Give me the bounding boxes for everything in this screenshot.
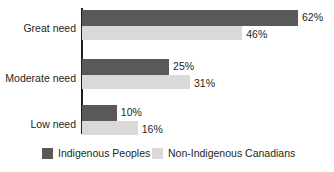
- bar-indigenous-moderate-need: [82, 59, 169, 75]
- value-label-indigenous-moderate-need: 25%: [173, 60, 194, 72]
- value-label-non-indigenous-low-need: 16%: [142, 123, 163, 135]
- value-label-non-indigenous-great-need: 46%: [246, 28, 267, 40]
- legend-item-non-indigenous-canadians: Non-Indigenous Canadians: [152, 146, 295, 160]
- category-label-low-need: Low need: [30, 118, 76, 130]
- legend-item-indigenous-peoples: Indigenous Peoples: [42, 146, 150, 160]
- bar-indigenous-great-need: [82, 10, 298, 26]
- bar-non-indigenous-low-need: [82, 121, 138, 135]
- legend-label-indigenous-peoples: Indigenous Peoples: [58, 147, 150, 159]
- bar-non-indigenous-great-need: [82, 26, 242, 40]
- plot-area: Great need 62% 46% Moderate need 25% 31%…: [0, 0, 334, 140]
- legend-swatch-icon-indigenous-peoples: [42, 148, 53, 159]
- bar-chart: Great need 62% 46% Moderate need 25% 31%…: [0, 0, 334, 172]
- bar-non-indigenous-moderate-need: [82, 75, 190, 89]
- chart-legend: Indigenous Peoples Non-Indigenous Canadi…: [0, 146, 334, 164]
- category-label-great-need: Great need: [23, 22, 76, 34]
- value-label-non-indigenous-moderate-need: 31%: [194, 77, 215, 89]
- legend-label-non-indigenous-canadians: Non-Indigenous Canadians: [168, 147, 295, 159]
- bar-indigenous-low-need: [82, 105, 117, 121]
- value-label-indigenous-great-need: 62%: [302, 11, 323, 23]
- value-label-indigenous-low-need: 10%: [121, 106, 142, 118]
- category-label-moderate-need: Moderate need: [5, 72, 76, 84]
- legend-swatch-icon-non-indigenous-canadians: [152, 148, 163, 159]
